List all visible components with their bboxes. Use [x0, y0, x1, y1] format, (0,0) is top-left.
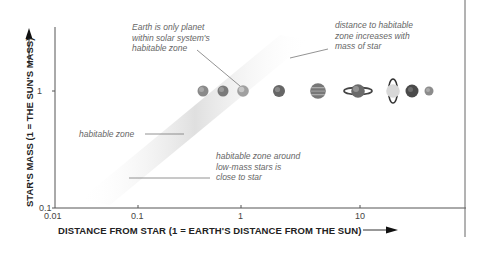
low-mass-annotation-line: low-mass stars is	[216, 162, 300, 173]
earth-annotation-line: habitable zone	[132, 43, 210, 54]
planet-venus-icon	[218, 86, 229, 97]
planet-neptune-icon	[406, 85, 419, 98]
distance-annotation-line: zone increases with	[335, 31, 413, 42]
earth-annotation: Earth is only planet within solar system…	[132, 22, 210, 54]
earth-leader-line	[197, 50, 240, 86]
x-axis-arrow-icon	[363, 227, 398, 234]
earth-annotation-line: Earth is only planet	[132, 22, 210, 33]
planet-mercury-icon	[198, 86, 209, 97]
planet-uranus-icon	[386, 79, 400, 103]
x-tick-label-1: 1	[238, 211, 243, 221]
y-axis-label: STAR'S MASS (1 = THE SUN'S MASS)	[24, 38, 35, 207]
x-tick-label-0.1: 0.1	[131, 211, 144, 221]
distance-annotation-line: distance to habitable	[335, 20, 413, 31]
distance-annotation-line: mass of star	[335, 41, 413, 52]
planet-mars-icon	[273, 85, 285, 97]
planet-pluto-icon	[425, 87, 434, 96]
distance-annotation: distance to habitable zone increases wit…	[335, 20, 413, 52]
low-mass-annotation-line: habitable zone around	[216, 151, 300, 162]
low-mass-annotation-line: close to star	[216, 172, 300, 183]
planet-earth-icon	[237, 85, 249, 97]
planet-saturn-icon	[344, 84, 372, 98]
planet-jupiter-icon	[310, 83, 326, 99]
x-tick-label-10: 10	[355, 211, 365, 221]
x-axis-label: DISTANCE FROM STAR (1 = EARTH'S DISTANCE…	[58, 225, 361, 236]
low-mass-annotation: habitable zone around low-mass stars is …	[216, 151, 300, 183]
habitable-zone-label: habitable zone	[79, 129, 134, 140]
x-tick-label-0.01: 0.01	[44, 211, 62, 221]
y-tick-label-1: 1	[37, 86, 42, 96]
earth-annotation-line: within solar system's	[132, 33, 210, 44]
